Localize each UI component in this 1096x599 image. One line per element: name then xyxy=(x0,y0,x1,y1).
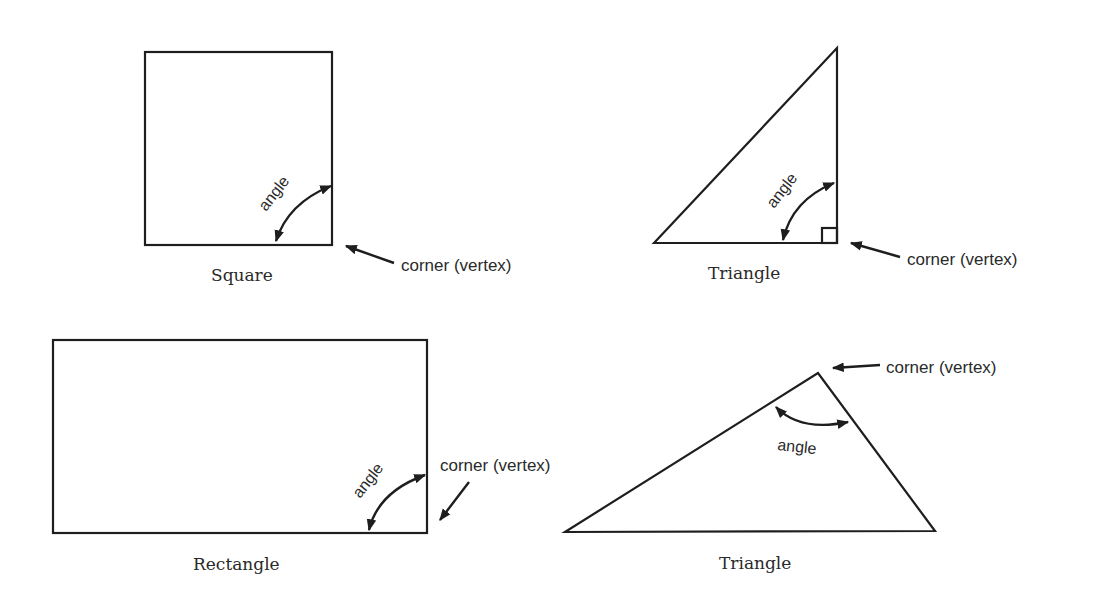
corner-arrow-icon xyxy=(346,246,394,263)
angle-arrow-icon xyxy=(276,186,331,241)
corner-label: corner (vertex) xyxy=(886,358,997,377)
shape-name-triangle: Triangle xyxy=(708,263,780,283)
angle-label: angle xyxy=(763,169,801,210)
corner-arrow-icon xyxy=(440,482,469,520)
shapes-diagram: angle Square corner (vertex) angle Trian… xyxy=(0,0,1096,599)
shape-name-triangle: Triangle xyxy=(719,553,791,573)
corner-label: corner (vertex) xyxy=(907,250,1018,269)
angle-label: angle xyxy=(255,172,293,213)
corner-label: corner (vertex) xyxy=(440,456,551,475)
corner-arrow-icon xyxy=(833,365,880,368)
shape-name-square: Square xyxy=(211,265,273,285)
angle-arrow-icon xyxy=(369,475,425,530)
obtuse-triangle-figure: angle Triangle corner (vertex) xyxy=(565,358,997,573)
corner-label: corner (vertex) xyxy=(401,256,512,275)
obtuse-triangle-shape xyxy=(565,373,935,532)
shape-name-rectangle: Rectangle xyxy=(193,554,280,574)
square-figure: angle Square corner (vertex) xyxy=(145,52,512,285)
angle-arrow-icon xyxy=(776,407,848,425)
corner-arrow-icon xyxy=(851,243,900,257)
right-angle-marker-icon xyxy=(822,228,837,243)
angle-label: angle xyxy=(777,436,818,457)
rectangle-shape xyxy=(53,340,427,533)
angle-label: angle xyxy=(349,459,387,500)
right-triangle-shape xyxy=(654,48,837,243)
rectangle-figure: angle Rectangle corner (vertex) xyxy=(53,340,551,574)
right-triangle-figure: angle Triangle corner (vertex) xyxy=(654,48,1018,283)
square-shape xyxy=(145,52,332,245)
